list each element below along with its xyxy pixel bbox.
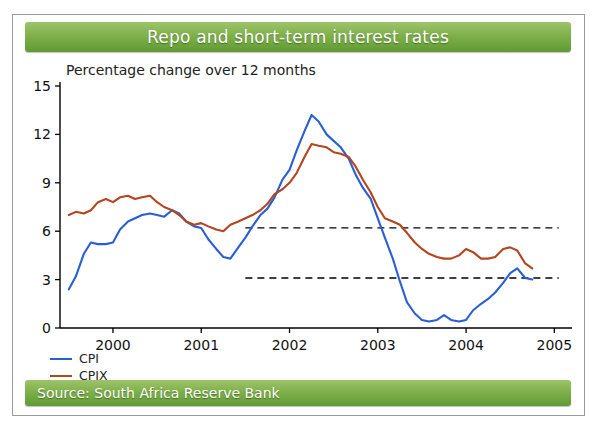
- y-tick-label: 9: [42, 175, 51, 191]
- legend-item-cpi: CPI: [50, 352, 108, 365]
- x-tick-label: 2005: [537, 337, 573, 353]
- x-tick-label: 2004: [448, 337, 484, 353]
- figure-root: Repo and short-term interest rates Perce…: [0, 0, 597, 428]
- x-tick-label: 2002: [272, 337, 308, 353]
- y-tick-label: 15: [33, 78, 51, 94]
- y-tick-label: 6: [42, 223, 51, 239]
- y-tick-label: 3: [42, 272, 51, 288]
- y-tick-label: 0: [42, 320, 51, 336]
- legend-label-cpi: CPI: [79, 351, 99, 366]
- y-tick-label: 12: [33, 126, 51, 142]
- x-tick-label: 2000: [95, 337, 131, 353]
- source-bar: Source: South Africa Reserve Bank: [25, 380, 571, 406]
- x-tick-label: 2003: [360, 337, 396, 353]
- legend-swatch-cpix: [50, 375, 72, 377]
- series-line-cpix: [69, 144, 532, 268]
- legend-swatch-cpi: [50, 358, 72, 360]
- x-tick-label: 2001: [183, 337, 219, 353]
- source-text: Source: South Africa Reserve Bank: [25, 385, 280, 401]
- chart-legend: CPI CPIX: [50, 352, 108, 382]
- series-line-cpi: [69, 115, 532, 322]
